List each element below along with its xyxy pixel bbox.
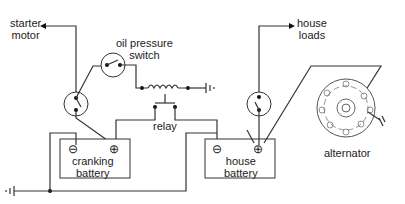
cranking-label-line2: battery	[72, 167, 114, 179]
starter-label-line1: starter	[10, 17, 41, 29]
oil-label-line2: switch	[116, 49, 173, 61]
starter-label-line2: motor	[10, 29, 41, 41]
starter-motor-label: starter motor	[10, 17, 41, 41]
starter-motor-wire	[46, 26, 76, 95]
house-loads-line2: loads	[297, 29, 327, 41]
house-positive-terminal: ⊕	[253, 143, 263, 155]
relay-coil-icon	[148, 85, 178, 88]
house-loads-arrow-icon	[289, 23, 295, 29]
oil-pressure-switch-label: oil pressure switch	[116, 37, 173, 61]
wiring-diagram: starter motor oil pressure switch house …	[0, 0, 405, 204]
alternator-icon	[317, 79, 385, 137]
oil-label-line1: oil pressure	[116, 37, 173, 49]
house-negative-terminal: ⊖	[212, 143, 222, 155]
house-battery-label: house battery	[224, 155, 258, 179]
cranking-negative-terminal: ⊖	[68, 143, 78, 155]
house-battery-line2: battery	[224, 167, 258, 179]
alternator-label: alternator	[324, 147, 370, 159]
cranking-label-line1: cranking	[72, 155, 114, 167]
relay-label: relay	[153, 120, 177, 132]
circuit-lines	[0, 0, 405, 204]
cranking-positive-terminal: ⊕	[109, 143, 119, 155]
house-loads-line1: house	[297, 17, 327, 29]
house-loads-label: house loads	[297, 17, 327, 41]
cranking-battery-label: cranking battery	[72, 155, 114, 179]
house-battery-line1: house	[224, 155, 258, 167]
